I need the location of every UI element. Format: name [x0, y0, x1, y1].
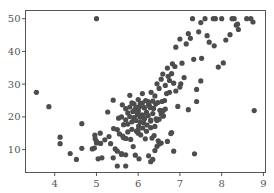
data-point: [175, 104, 180, 109]
y-tick-label: 10: [8, 144, 21, 155]
y-axis-ticks: 1020304050: [8, 13, 26, 155]
data-point: [102, 137, 107, 142]
data-point: [252, 108, 257, 113]
data-point: [216, 65, 221, 70]
data-point: [46, 104, 51, 109]
data-point: [198, 20, 203, 25]
data-point: [142, 105, 147, 110]
data-point: [154, 81, 159, 86]
x-tick-label: 8: [218, 178, 224, 189]
data-point: [213, 16, 218, 21]
data-point: [192, 151, 197, 156]
data-point: [136, 131, 141, 136]
y-tick-label: 50: [8, 13, 21, 24]
scatter-chart: 456789 1020304050: [0, 0, 274, 193]
data-point: [157, 117, 162, 122]
data-point: [121, 122, 126, 127]
data-point: [162, 98, 167, 103]
data-point: [58, 135, 63, 140]
data-point: [221, 60, 226, 65]
data-point: [205, 33, 210, 38]
data-point: [167, 90, 172, 95]
data-point: [92, 145, 97, 150]
data-point: [165, 139, 170, 144]
data-point: [182, 75, 187, 80]
data-point: [94, 139, 99, 144]
data-point: [108, 141, 113, 146]
data-point: [123, 117, 128, 122]
data-point: [179, 61, 184, 66]
data-point: [163, 83, 168, 88]
data-point: [194, 87, 199, 92]
y-tick-label: 40: [8, 46, 21, 57]
data-point: [146, 153, 151, 158]
data-point: [142, 116, 147, 121]
data-point: [111, 155, 116, 160]
data-point: [148, 125, 153, 130]
data-point: [163, 106, 168, 111]
data-point: [207, 40, 212, 45]
data-point: [194, 99, 199, 104]
x-tick-label: 4: [52, 178, 58, 189]
data-point: [105, 109, 110, 114]
data-point: [212, 43, 217, 48]
y-tick-label: 20: [8, 111, 21, 122]
data-point: [223, 37, 228, 42]
data-point: [144, 129, 149, 134]
data-point: [159, 140, 164, 145]
data-point: [202, 16, 207, 21]
y-tick-label: 30: [8, 79, 21, 90]
data-point: [34, 90, 39, 95]
data-point: [165, 66, 170, 71]
data-point: [150, 157, 155, 162]
data-point: [191, 57, 196, 62]
data-point: [149, 90, 154, 95]
data-point: [68, 151, 73, 156]
data-point: [160, 71, 165, 76]
data-point: [115, 163, 120, 168]
data-point: [190, 16, 195, 21]
x-tick-label: 9: [260, 178, 266, 189]
data-point: [146, 100, 151, 105]
data-point: [232, 16, 237, 21]
data-point: [152, 133, 157, 138]
data-point: [184, 41, 189, 46]
data-point: [172, 64, 177, 69]
data-point: [198, 78, 203, 83]
x-tick-label: 6: [135, 178, 141, 189]
data-point: [138, 120, 143, 125]
x-tick-label: 7: [177, 178, 183, 189]
data-point: [157, 86, 162, 91]
data-point: [234, 23, 239, 28]
data-point: [196, 29, 201, 34]
data-point: [219, 16, 224, 21]
data-point: [186, 107, 191, 112]
data-point: [177, 36, 182, 41]
data-point: [99, 155, 104, 160]
data-point: [171, 81, 176, 86]
data-point: [74, 157, 79, 162]
data-point: [171, 149, 176, 154]
data-point: [127, 93, 132, 98]
data-point: [169, 130, 174, 135]
data-point: [120, 102, 125, 107]
data-point: [199, 56, 204, 61]
data-point: [131, 144, 136, 149]
data-point: [227, 32, 232, 37]
data-point: [177, 85, 182, 90]
x-axis-ticks: 456789: [52, 173, 267, 189]
data-point: [148, 119, 153, 124]
data-point: [58, 141, 63, 146]
data-point: [188, 36, 193, 41]
data-point: [79, 121, 84, 126]
data-point: [94, 16, 99, 21]
data-point: [106, 134, 111, 139]
data-point: [136, 156, 141, 161]
data-point: [115, 149, 120, 154]
data-point: [117, 131, 122, 136]
data-point: [98, 131, 103, 136]
data-point: [173, 45, 178, 50]
data-point: [121, 135, 126, 140]
data-point: [123, 106, 128, 111]
data-point: [173, 88, 178, 93]
